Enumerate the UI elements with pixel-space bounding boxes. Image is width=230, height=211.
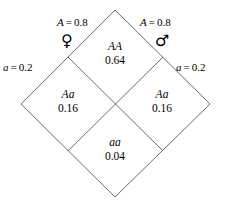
genotype-label-aa: aa: [80, 136, 150, 150]
genotype-frequency-AA: 0.64: [80, 54, 150, 68]
male-dominant-allele-label: A=0.8: [140, 17, 171, 29]
genotype-frequency-Aa-left: 0.16: [33, 102, 103, 116]
venus-female-symbol-icon: ♀: [61, 33, 73, 49]
genotype-cell-Aa-right: Aa 0.16: [127, 88, 197, 115]
female-recessive-allele-label: a=0.2: [3, 62, 32, 74]
genotype-cell-AA: AA 0.64: [80, 40, 150, 67]
female-dominant-allele-equals: =: [66, 16, 72, 28]
genotype-cell-aa: aa 0.04: [80, 136, 150, 163]
female-recessive-allele-variable: a: [3, 61, 9, 73]
male-recessive-allele-equals: =: [184, 61, 190, 73]
male-dominant-allele-variable: A: [140, 16, 147, 28]
genotype-label-AA: AA: [80, 40, 150, 54]
genotype-cell-Aa-left: Aa 0.16: [33, 88, 103, 115]
punnett-square-figure: A=0.8 A=0.8 a=0.2 a=0.2 ♀ ♂ AA 0.64 Aa 0…: [0, 0, 230, 211]
male-recessive-allele-label: a=0.2: [176, 62, 205, 74]
male-dominant-allele-value: 0.8: [157, 16, 171, 28]
female-dominant-allele-value: 0.8: [74, 16, 88, 28]
female-dominant-allele-variable: A: [57, 16, 64, 28]
female-recessive-allele-value: 0.2: [19, 61, 33, 73]
male-dominant-allele-equals: =: [149, 16, 155, 28]
mars-male-symbol-icon: ♂: [155, 33, 169, 49]
genotype-label-Aa-right: Aa: [127, 88, 197, 102]
genotype-frequency-aa: 0.04: [80, 150, 150, 164]
genotype-frequency-Aa-right: 0.16: [127, 102, 197, 116]
genotype-label-Aa-left: Aa: [33, 88, 103, 102]
male-recessive-allele-value: 0.2: [192, 61, 206, 73]
female-dominant-allele-label: A=0.8: [57, 17, 88, 29]
female-recessive-allele-equals: =: [11, 61, 17, 73]
male-recessive-allele-variable: a: [176, 61, 182, 73]
